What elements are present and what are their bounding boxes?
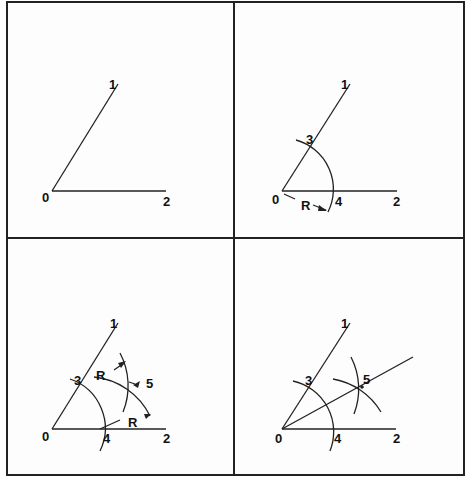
label-vertex: 0 [272, 193, 279, 206]
label-point-3: 3 [306, 133, 313, 146]
bisector-diagram [235, 239, 465, 475]
label-vertex: 0 [275, 432, 282, 445]
label-ray2-end: 2 [393, 432, 400, 445]
label-ray1-end: 1 [341, 317, 348, 330]
label-vertex: 0 [42, 430, 49, 443]
panel-step-1: 0 1 2 [8, 3, 238, 239]
panel-step-4: 0 1 2 3 4 5 [235, 239, 465, 475]
label-point-4: 4 [103, 432, 110, 445]
label-point-4: 4 [335, 195, 342, 208]
label-ray1-end: 1 [341, 78, 348, 91]
label-ray2-end: 2 [393, 195, 400, 208]
label-point-5: 5 [363, 373, 370, 386]
label-ray1-end: 1 [110, 317, 117, 330]
panel-step-3: 0 1 2 3 4 5 R R [8, 239, 238, 475]
label-radius-a: R [96, 369, 105, 382]
label-point-3: 3 [74, 374, 81, 387]
label-radius-b: R [128, 416, 137, 429]
label-point-5: 5 [146, 377, 153, 390]
arc-diagram [235, 3, 465, 239]
label-point-4: 4 [334, 432, 341, 445]
label-ray2-end: 2 [163, 195, 170, 208]
label-vertex: 0 [42, 191, 49, 204]
label-ray2-end: 2 [163, 432, 170, 445]
label-ray1-end: 1 [109, 78, 116, 91]
label-radius: R [301, 199, 310, 212]
label-point-3: 3 [305, 374, 312, 387]
panel-step-2: 0 1 2 3 4 R [235, 3, 465, 239]
